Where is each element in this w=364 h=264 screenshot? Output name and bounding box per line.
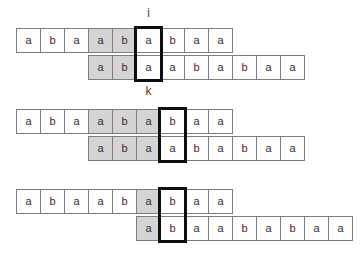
cell: b — [184, 55, 209, 80]
cell: a — [256, 136, 281, 161]
cell: a — [64, 189, 89, 214]
matched-cell: b — [112, 55, 137, 80]
cell: a — [16, 109, 41, 134]
pattern-row: abaababaa — [88, 55, 305, 80]
cell: b — [232, 136, 257, 161]
cell: a — [136, 28, 161, 53]
cell: a — [256, 55, 281, 80]
cell: a — [184, 189, 209, 214]
cell: b — [40, 28, 65, 53]
cell: b — [232, 55, 257, 80]
cell: a — [256, 216, 281, 241]
cell: a — [64, 109, 89, 134]
cell: a — [208, 55, 233, 80]
cell: b — [40, 189, 65, 214]
matched-cell: a — [136, 216, 161, 241]
text-row: abaababaa — [16, 109, 233, 134]
cell: a — [280, 136, 305, 161]
cell: a — [136, 55, 161, 80]
matched-cell: a — [88, 55, 113, 80]
cell: a — [328, 216, 353, 241]
matched-cell: a — [88, 109, 113, 134]
cell: b — [112, 189, 137, 214]
matched-cell: b — [112, 136, 137, 161]
cell: b — [160, 28, 185, 53]
text-row: abaababaa — [16, 189, 233, 214]
matched-cell: a — [88, 28, 113, 53]
matched-cell: a — [136, 109, 161, 134]
cell: b — [232, 216, 257, 241]
cell: a — [160, 136, 185, 161]
cell: a — [88, 189, 113, 214]
matched-cell: a — [88, 136, 113, 161]
cell: b — [280, 216, 305, 241]
matched-cell: a — [136, 189, 161, 214]
cell: a — [64, 28, 89, 53]
pattern-row: abaababaa — [88, 136, 305, 161]
cell: a — [184, 216, 209, 241]
matched-cell: a — [136, 136, 161, 161]
string-matching-shift-diagram: abaababaaabaababaaik abaababaaabaababaa … — [0, 0, 364, 264]
cell: a — [16, 189, 41, 214]
cell: a — [208, 28, 233, 53]
cell: a — [208, 109, 233, 134]
cell: a — [184, 28, 209, 53]
cell: a — [304, 216, 329, 241]
cell: a — [160, 55, 185, 80]
matched-cell: b — [112, 109, 137, 134]
cell: b — [160, 109, 185, 134]
matched-cell: b — [112, 28, 137, 53]
cell: a — [208, 136, 233, 161]
text-row: abaababaa — [16, 28, 233, 53]
pattern-row: abaababaa — [136, 216, 353, 241]
cell: a — [208, 189, 233, 214]
cell: a — [16, 28, 41, 53]
cell: b — [160, 189, 185, 214]
cell: b — [160, 216, 185, 241]
pointer-label-i: i — [134, 6, 163, 20]
cell: a — [280, 55, 305, 80]
cell: b — [40, 109, 65, 134]
cell: b — [184, 136, 209, 161]
pointer-label-k: k — [134, 84, 163, 98]
cell: a — [184, 109, 209, 134]
cell: a — [208, 216, 233, 241]
